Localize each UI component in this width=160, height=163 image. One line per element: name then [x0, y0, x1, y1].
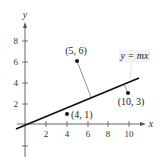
y-axis-arrow-icon — [23, 22, 27, 28]
point-label-10-3: (10, 3) — [118, 96, 145, 108]
x-tick-label: 6 — [86, 129, 91, 139]
y-axis-label: y — [22, 9, 28, 20]
x-axis-label: x — [148, 118, 154, 129]
point-label-5-6: (5, 6) — [65, 45, 87, 57]
y-tick-label: 4 — [14, 78, 19, 88]
x-tick-label: 2 — [44, 129, 49, 139]
x-tick-label: 8 — [106, 129, 111, 139]
equation-leader-line — [130, 62, 132, 81]
point-label-4-1: (4, 1) — [71, 109, 93, 121]
x-tick-label: 10 — [125, 129, 135, 139]
point-4-1 — [65, 112, 69, 116]
point-5-6 — [75, 59, 79, 63]
x-tick-label: 4 — [65, 129, 70, 139]
y-tick-label: 6 — [14, 57, 19, 67]
equation-label: y = mx — [120, 50, 149, 61]
y-tick-label: 8 — [14, 36, 19, 46]
diagram-canvas: 2 4 6 8 10 2 4 6 8 y x y = mx (5, 6) (4,… — [0, 0, 160, 163]
x-axis-arrow-icon — [140, 122, 146, 126]
point-10-3 — [126, 91, 130, 95]
y-tick-label: 2 — [14, 99, 19, 109]
distance-segment-p1 — [77, 61, 91, 97]
